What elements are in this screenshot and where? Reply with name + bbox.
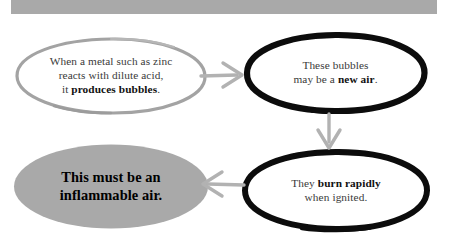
- hypothesis-line-2-prefix: may be a: [293, 73, 338, 85]
- arrow-left-icon: [198, 167, 246, 201]
- premise-line-3-emphasis: produces bubbles: [71, 83, 157, 95]
- premise-line-3-prefix: it: [62, 83, 71, 95]
- observation-line-1-emphasis: burn rapidly: [318, 177, 381, 189]
- hypothesis-node[interactable]: These bubbles may be a new air.: [242, 31, 429, 115]
- premise-line-2: reacts with dilute acid,: [59, 69, 164, 81]
- observation-text: They burn rapidly when ignited.: [277, 177, 395, 205]
- conclusion-text: This must be an inflammable air.: [44, 169, 179, 204]
- observation-line-1-prefix: They: [291, 177, 318, 189]
- conclusion-line-2: inflammable air.: [60, 187, 163, 203]
- header-band: [11, 0, 437, 14]
- premise-line-3-suffix: .: [157, 83, 160, 95]
- premise-text: When a metal such as zinc reacts with di…: [36, 55, 187, 96]
- conclusion-line-1: This must be an: [61, 169, 160, 185]
- conclusion-node[interactable]: This must be an inflammable air.: [13, 144, 209, 229]
- premise-node[interactable]: When a metal such as zinc reacts with di…: [14, 36, 208, 116]
- diagram-canvas: When a metal such as zinc reacts with di…: [0, 0, 451, 237]
- hypothesis-text: These bubbles may be a new air.: [279, 59, 391, 87]
- hypothesis-line-2-suffix: .: [375, 73, 378, 85]
- arrow-down-icon: [312, 112, 346, 152]
- arrow-right-icon: [199, 58, 247, 92]
- observation-line-2: when ignited.: [305, 191, 368, 203]
- hypothesis-line-2-emphasis: new air: [338, 73, 375, 85]
- premise-line-1: When a metal such as zinc: [50, 55, 173, 67]
- observation-node[interactable]: They burn rapidly when ignited.: [240, 148, 432, 233]
- hypothesis-line-1: These bubbles: [302, 59, 368, 71]
